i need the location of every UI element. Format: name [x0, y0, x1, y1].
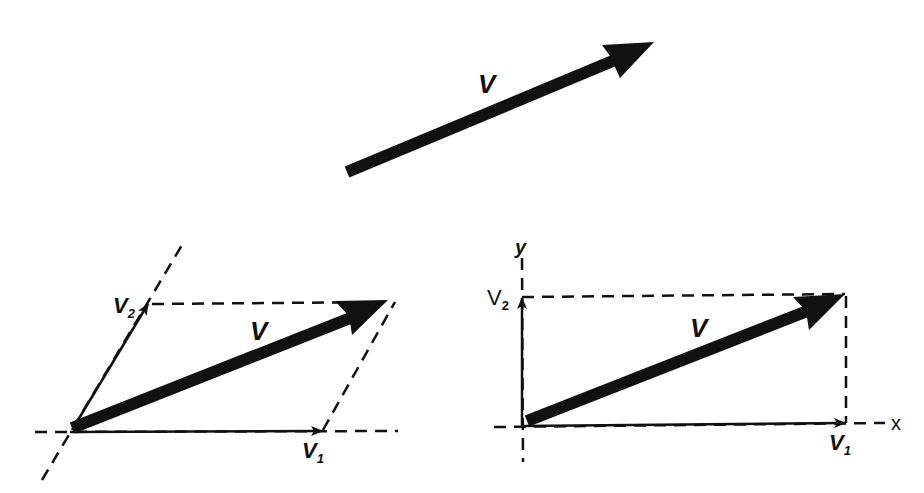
parallelogram-v1-label: V1 [302, 438, 324, 466]
rectangular-v1-label: V1 [829, 430, 851, 458]
component-vector-v1 [70, 431, 322, 432]
rectangular-v2-label: V2 [487, 285, 509, 313]
rectangular-diagram [494, 258, 885, 462]
resultant-vector-shaft [72, 315, 358, 428]
parallelogram-resultant-label: V [250, 316, 270, 346]
x-axis-label: x [891, 412, 901, 434]
rectangle-top-dashed-line [522, 294, 845, 297]
component-vector-v1 [523, 423, 845, 426]
vector-decomposition-figure: V V V2 V1 V V2 V1 x y [0, 0, 924, 493]
parallelogram-diagram [35, 245, 398, 480]
resultant-vector-shaft [527, 308, 815, 421]
top-vector-label: V [478, 69, 498, 99]
y-axis-label: y [514, 236, 527, 258]
rectangular-resultant-label: V [690, 313, 710, 343]
parallelogram-v2-label: V2 [113, 293, 136, 321]
top-vector-v [347, 42, 654, 172]
